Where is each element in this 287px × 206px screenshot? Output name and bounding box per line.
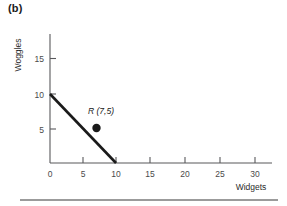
figure-container: (b) 15 10 5 0 5 10 15 20 25 30 R ( (0, 0, 287, 206)
plot-area: 15 10 5 0 5 10 15 20 25 30 R (7,5) Woggl… (0, 0, 287, 206)
y-tick-label-5: 5 (39, 125, 44, 135)
footer-divider (20, 199, 278, 201)
data-point-r (92, 124, 100, 132)
y-tick-label-15: 15 (35, 54, 45, 64)
x-axis-title: Widgets (236, 182, 267, 192)
y-axis-title: Woggles (13, 39, 23, 72)
data-point-r-label: R (7,5) (88, 106, 114, 116)
x-tick-label-15: 15 (145, 169, 155, 179)
y-tick-label-10: 10 (35, 90, 45, 100)
budget-constraint-line (50, 94, 116, 163)
x-tick-label-10: 10 (111, 169, 121, 179)
x-tick-label-0: 0 (48, 169, 53, 179)
x-tick-label-30: 30 (250, 169, 260, 179)
x-tick-label-25: 25 (215, 169, 225, 179)
x-tick-label-5: 5 (81, 169, 86, 179)
x-tick-label-20: 20 (180, 169, 190, 179)
